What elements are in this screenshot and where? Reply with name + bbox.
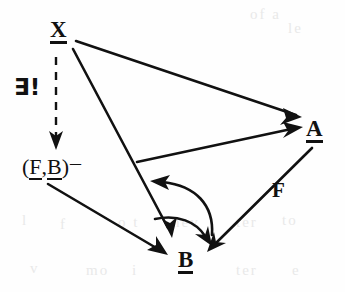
paren-open: ( [22, 156, 29, 178]
node-label-b: B [178, 248, 193, 274]
edge-fb-to-a [137, 122, 303, 162]
edge-label-f: F [272, 180, 285, 201]
edge-x-to-b [73, 49, 177, 238]
superscript-minus: – [70, 152, 81, 174]
node-x-text: X [50, 18, 67, 44]
node-a-text: A [306, 117, 323, 143]
node-fb-b-text: B [47, 156, 62, 180]
edge-label-exists-unique: ∃! [14, 76, 40, 99]
diagram-canvas: of a le o t l f nev ter to v mo i ter e [0, 0, 345, 292]
node-label-x: X [50, 18, 67, 44]
node-label-a: A [306, 117, 323, 143]
edge-a-to-b [207, 148, 312, 252]
edge-x-to-fb-dashed [49, 57, 63, 150]
node-label-fb: (F,B)– [22, 152, 81, 180]
edge-curve-upper [150, 175, 212, 235]
paren-close: ) [62, 156, 69, 178]
edge-x-to-a [76, 41, 302, 125]
node-fb-f-text: F [29, 156, 41, 180]
node-b-text: B [178, 248, 193, 274]
